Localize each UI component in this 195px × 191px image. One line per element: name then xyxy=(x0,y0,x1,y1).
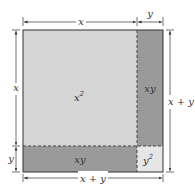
label-right-total: x + y xyxy=(168,96,194,107)
label-left-y: y xyxy=(7,153,14,164)
label-xy-right: xy xyxy=(144,83,156,94)
region-x-squared xyxy=(23,30,137,146)
area-model-diagram: x y x y x + y x + y x2 xy xy y2 xyxy=(0,0,195,191)
label-top-y: y xyxy=(146,8,153,19)
label-xy-bottom: xy xyxy=(74,154,86,165)
label-bottom-total: x + y xyxy=(80,173,106,184)
label-top-x: x xyxy=(78,16,84,27)
label-left-x: x xyxy=(13,82,19,93)
